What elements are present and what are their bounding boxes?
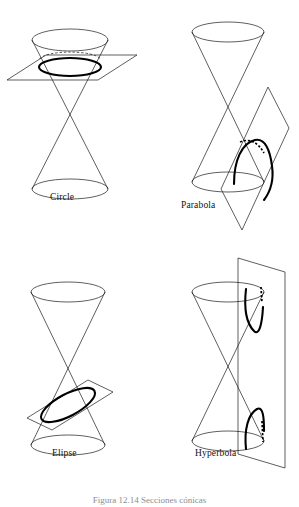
circle-diagram-svg: [2, 14, 142, 199]
figure-label-parabola: Parabola: [181, 200, 215, 210]
cutting-plane-oblique: [27, 380, 113, 430]
figure-parabola: Parabola: [160, 14, 299, 244]
cone-bottom-rim: [192, 172, 264, 192]
figure-label-elipse: Elipse: [52, 448, 77, 458]
conic-sections-page: Circle Parabola: [0, 0, 299, 507]
conic-curve-circle: [39, 58, 101, 76]
cutting-plane-parabola: [221, 87, 289, 230]
hyperbola-diagram-svg: [160, 245, 299, 480]
hidden-hyperbola-arc-upper: [261, 287, 262, 303]
cone-top-rim: [192, 282, 264, 302]
elipse-diagram-svg: [2, 270, 142, 465]
figure-label-circle: Circle: [50, 192, 74, 202]
figure-grid: Circle Parabola: [0, 0, 299, 507]
conic-curve-ellipse: [36, 381, 99, 429]
cone-top-rim: [31, 282, 105, 302]
figure-label-hyperbola: Hyperbola: [195, 448, 236, 458]
figure-hyperbola: Hyperbola: [160, 245, 299, 480]
figure-circle: Circle: [2, 14, 142, 199]
cone-top-rim: [32, 29, 108, 51]
figure-caption: Figura 12.14 Secciones cónicas: [0, 494, 299, 507]
figure-elipse: Elipse: [2, 270, 142, 465]
cone-top-rim: [192, 22, 264, 42]
conic-curve-hyperbola-lower: [245, 409, 264, 449]
